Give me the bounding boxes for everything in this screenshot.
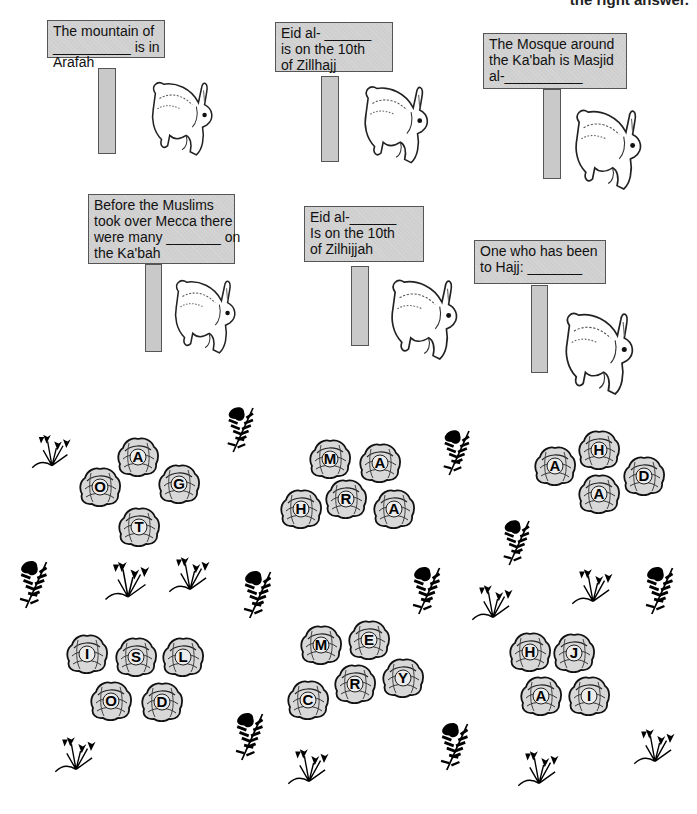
cabbage-letter: A [520, 676, 562, 716]
letter-cabbage[interactable]: R [325, 479, 367, 519]
fern-icon [405, 560, 451, 622]
sign-line: __________ is in [53, 39, 159, 55]
letter-cabbage[interactable]: I [568, 676, 610, 716]
sign-line: of Zilhijjah [310, 241, 418, 257]
letter-cabbage[interactable]: C [287, 680, 329, 720]
rabbit-icon [356, 82, 434, 168]
sign-1: The mountain of __________ is in Arafah [47, 20, 165, 58]
letter-cabbage[interactable]: A [534, 446, 576, 486]
cabbage-letter: A [373, 489, 415, 529]
cabbage-letter: D [141, 682, 183, 722]
fern-icon [236, 564, 282, 626]
cabbage-letter: G [158, 464, 200, 504]
cabbage-letter: Y [382, 658, 424, 698]
letter-cabbage[interactable]: M [300, 625, 342, 665]
rabbit-icon [165, 276, 243, 358]
flower-icon [24, 426, 80, 470]
cabbage-letter: L [162, 637, 204, 677]
cabbage-letter: E [348, 620, 390, 660]
letter-cabbage[interactable]: D [623, 456, 665, 496]
letter-cabbage[interactable]: D [141, 682, 183, 722]
flower-icon [466, 576, 520, 622]
cabbage-letter: H [578, 430, 620, 470]
sign-line: the Ka'bah [94, 245, 229, 261]
sign-line: The mountain of [53, 23, 159, 39]
letter-cabbage[interactable]: A [117, 437, 159, 477]
sign-2: Eid al- ______ is on the 10th of Zillhaj… [275, 22, 393, 72]
flower-icon [100, 552, 156, 602]
letter-cabbage[interactable]: H [578, 430, 620, 470]
flower-icon [565, 560, 621, 606]
fern-icon [220, 400, 264, 460]
letter-cabbage[interactable]: A [373, 489, 415, 529]
letter-cabbage[interactable]: I [66, 634, 108, 674]
cabbage-letter: D [623, 456, 665, 496]
sign-line: were many _______ on [94, 229, 229, 245]
fern-icon [433, 716, 479, 778]
sign-line: to Hajj: _______ [480, 259, 600, 275]
flower-icon [48, 728, 104, 774]
cabbage-letter: H [280, 489, 322, 529]
cabbage-letter: A [117, 437, 159, 477]
sign-3: The Mosque around the Ka'bah is Masjid a… [483, 33, 627, 89]
letter-cabbage[interactable]: S [115, 637, 157, 677]
sign-post [145, 264, 162, 352]
fern-icon [496, 512, 540, 574]
letter-cabbage[interactable]: H [280, 489, 322, 529]
cabbage-letter: S [115, 637, 157, 677]
fern-icon [436, 424, 480, 482]
cabbage-letter: M [300, 625, 342, 665]
cabbage-letter: J [553, 633, 595, 673]
sign-post [98, 68, 116, 154]
letter-cabbage[interactable]: L [162, 637, 204, 677]
sign-line: The Mosque around [489, 36, 621, 52]
letter-cabbage[interactable]: O [90, 681, 132, 721]
letter-cabbage[interactable]: T [118, 507, 160, 547]
sign-line: Eid al- ______ [281, 25, 387, 41]
sign-line: of Zillhajj [281, 57, 387, 73]
rabbit-icon [558, 306, 638, 402]
letter-cabbage[interactable]: Y [382, 658, 424, 698]
cabbage-letter: A [534, 446, 576, 486]
sign-6: One who has been to Hajj: _______ [474, 240, 606, 284]
cabbage-letter: O [79, 467, 121, 507]
sign-4: Before the Muslims took over Mecca there… [88, 194, 235, 264]
letter-cabbage[interactable]: M [309, 439, 351, 479]
letter-cabbage[interactable]: O [79, 467, 121, 507]
letter-cabbage[interactable]: R [334, 664, 376, 704]
sign-line: Eid al-______ [310, 209, 418, 225]
instruction-header: the right answer. [570, 0, 689, 8]
cabbage-letter: A [359, 443, 401, 483]
fern-icon [12, 554, 58, 616]
cabbage-letter: H [509, 632, 551, 672]
sign-line: One who has been [480, 243, 600, 259]
sign-line: took over Mecca there [94, 213, 229, 229]
letter-cabbage[interactable]: A [520, 676, 562, 716]
cabbage-letter: O [90, 681, 132, 721]
flower-icon [627, 720, 683, 766]
sign-line: the Ka'bah is Masjid [489, 52, 621, 68]
cabbage-letter: T [118, 507, 160, 547]
cabbage-letter: A [578, 474, 620, 514]
sign-line: al-__________ [489, 68, 621, 84]
letter-cabbage[interactable]: A [578, 474, 620, 514]
letter-cabbage[interactable]: A [359, 443, 401, 483]
fern-icon [228, 706, 274, 768]
cabbage-letter: C [287, 680, 329, 720]
sign-line: Before the Muslims [94, 197, 229, 213]
rabbit-icon [384, 270, 462, 370]
letter-cabbage[interactable]: H [509, 632, 551, 672]
flower-icon [511, 742, 567, 788]
cabbage-letter: M [309, 439, 351, 479]
letter-cabbage[interactable]: J [553, 633, 595, 673]
rabbit-icon [568, 102, 646, 198]
flower-icon [281, 740, 337, 786]
sign-post [351, 266, 369, 346]
sign-post [543, 89, 561, 179]
cabbage-letter: R [325, 479, 367, 519]
letter-cabbage[interactable]: G [158, 464, 200, 504]
flower-icon [162, 548, 218, 594]
rabbit-icon [142, 78, 220, 160]
cabbage-letter: I [568, 676, 610, 716]
letter-cabbage[interactable]: E [348, 620, 390, 660]
